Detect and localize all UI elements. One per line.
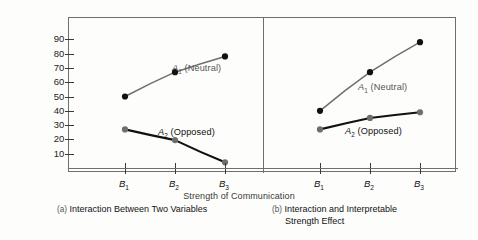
y-axis-tick-60: 60 [46, 76, 64, 87]
series-label-neutral: A1 (Neutral) [172, 63, 221, 75]
x-tick-label-panela-2: B2 [169, 178, 179, 191]
y-axis-tick-70: 70 [46, 61, 64, 72]
x-axis-title: Strength of Communication [0, 191, 478, 201]
data-point-opposed-b2 [367, 115, 373, 121]
y-axis-tick-10: 10 [46, 147, 64, 158]
x-tick-label-panelb-1: B1 [314, 178, 324, 191]
y-axis-tick-50: 50 [46, 90, 64, 101]
caption-panel-b: (b) Interaction and Interpretable Streng… [272, 204, 462, 227]
y-axis-tick-80: 80 [46, 47, 64, 58]
y-tick-mark-70 [65, 68, 74, 69]
data-point-neutral-b1 [122, 93, 128, 99]
caption-a-tag: (a) [57, 205, 67, 214]
x-axis-line-panelb [264, 168, 458, 169]
caption-panel-a: (a) Interaction Between Two Variables [57, 204, 257, 216]
data-point-neutral-b3 [417, 39, 423, 45]
y-tick-mark-60 [65, 82, 74, 83]
x-axis-line-panela [69, 168, 263, 169]
data-point-opposed-b1 [122, 126, 128, 132]
data-point-neutral-b3 [222, 53, 228, 59]
y-tick-mark-80 [65, 54, 74, 55]
x-axis-tick-labels: B1B2B3B1B2B3 [0, 178, 478, 192]
y-axis-tick-90: 90 [46, 33, 64, 44]
figure-container: Mean Degree of Acceptance of Proposed Po… [0, 0, 478, 240]
plot-frame [68, 17, 456, 172]
y-tick-mark-50 [65, 97, 74, 98]
panel-a-plot [69, 18, 263, 173]
data-point-opposed-b1 [317, 126, 323, 132]
series-line-neutral [320, 42, 420, 111]
y-tick-mark-20 [65, 139, 74, 140]
caption-b-text-line1: Interaction and Interpretable [285, 204, 398, 214]
caption-b-tag: (b) [272, 205, 282, 214]
x-tick-label-panelb-3: B3 [414, 178, 424, 191]
y-tick-mark-10 [65, 154, 74, 155]
y-axis-title-line1: Mean Degree of Acceptance [16, 0, 27, 14]
series-label-neutral: A1 (Neutral) [358, 82, 407, 94]
y-axis-title-line2: of Proposed Position [27, 0, 38, 14]
panel-b-plot [264, 18, 458, 173]
series-label-opposed: A2 (Opposed) [158, 127, 215, 139]
caption-a-text: Interaction Between Two Variables [70, 204, 208, 214]
y-axis-tick-30: 30 [46, 119, 64, 130]
y-axis-title: Mean Degree of Acceptance of Proposed Po… [16, 0, 38, 14]
data-point-neutral-b1 [317, 108, 323, 114]
x-tick-label-panela-1: B1 [119, 178, 129, 191]
data-point-opposed-b3 [417, 109, 423, 115]
series-label-opposed: A2 (Opposed) [345, 126, 402, 138]
y-axis-tick-40: 40 [46, 104, 64, 115]
x-tick-label-panela-3: B3 [219, 178, 229, 191]
caption-b-text-line2: Strength Effect [285, 216, 462, 228]
y-tick-mark-40 [65, 111, 74, 112]
y-axis-tick-20: 20 [46, 133, 64, 144]
y-tick-mark-90 [65, 39, 74, 40]
y-tick-mark-30 [65, 125, 74, 126]
data-point-neutral-b2 [367, 69, 373, 75]
x-tick-label-panelb-2: B2 [364, 178, 374, 191]
